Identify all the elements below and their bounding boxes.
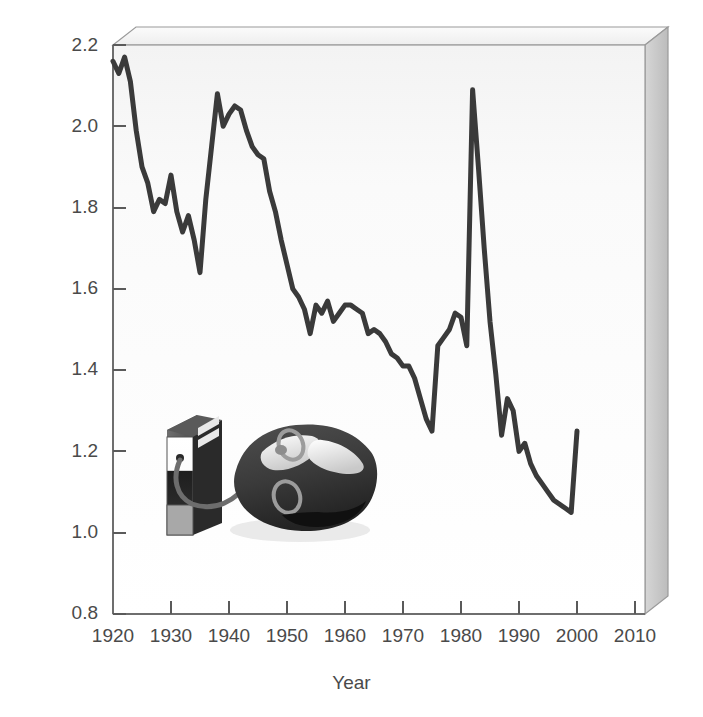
chart-right-face [645,27,668,614]
gasoline-price-chart: Dollars per gallon (in 1993 dollars) Yea… [0,0,703,717]
chart-top-face [113,27,668,45]
chart-svg [0,0,703,717]
